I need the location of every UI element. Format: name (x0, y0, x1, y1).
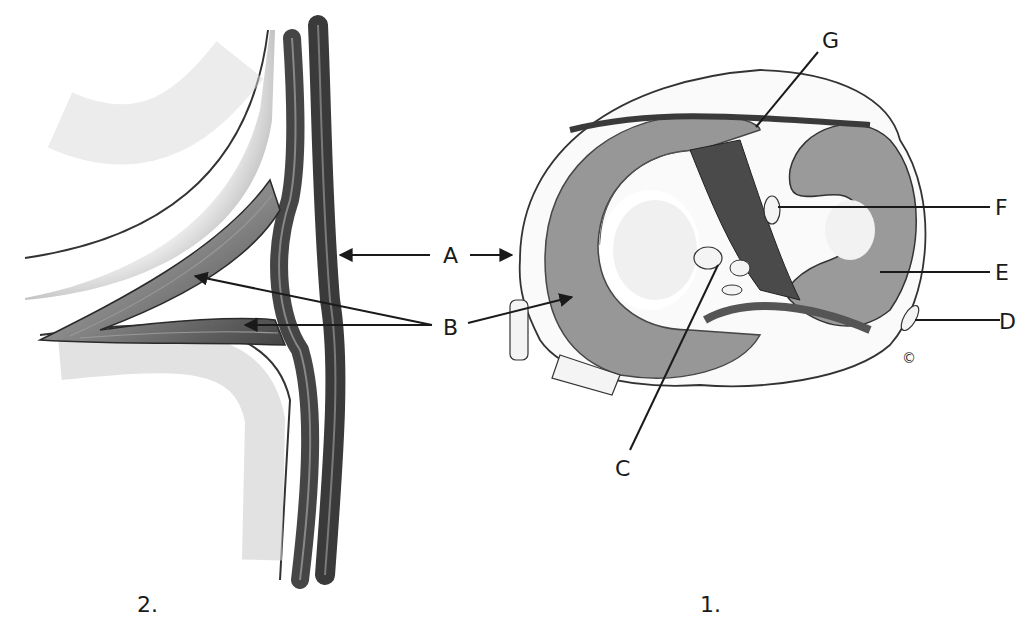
diagram-canvas (0, 0, 1023, 630)
figure-caption-2: 2. (137, 592, 158, 617)
ligament-stump-f (764, 196, 780, 224)
label-e: E (995, 262, 1009, 284)
figure-2-cross-section (25, 25, 335, 580)
label-d: D (999, 311, 1016, 333)
label-c: C (615, 458, 630, 480)
label-g: G (822, 30, 839, 52)
label-f: F (995, 197, 1008, 219)
label-a: A (443, 245, 458, 267)
label-b: B (443, 317, 458, 339)
figure-caption-1: 1. (700, 592, 721, 617)
figure-1-top-view (510, 70, 925, 395)
copyright-mark: © (902, 350, 916, 366)
